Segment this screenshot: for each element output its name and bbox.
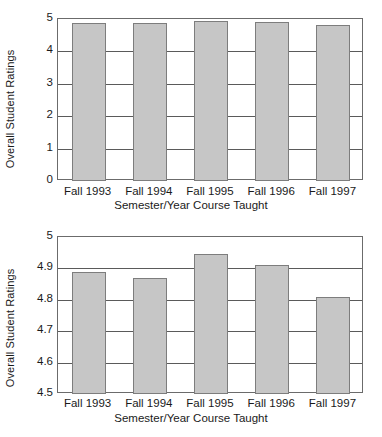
y-axis-tick-label: 1 [47,142,53,154]
y-axis-tick-label: 4.6 [37,356,53,368]
bar [194,21,228,181]
bar-chart-full-scale: Overall Student Ratings 012345 Fall 1993… [0,0,382,218]
bar [255,22,289,181]
y-axis-tick-label: 2 [47,109,53,121]
y-axis-tick-label: 4.7 [37,324,53,336]
x-axis-tick-label: Fall 1993 [64,186,111,198]
y-axis-tick-label: 5 [47,12,53,24]
bar [316,297,350,394]
y-axis-tick-label: 5 [47,230,53,242]
plot-area-bottom [57,236,363,393]
x-axis-tick-label: Fall 1993 [64,398,111,410]
y-axis-title-top: Overall Student Ratings [0,0,20,218]
bar [72,272,106,394]
x-axis-tick-label: Fall 1997 [309,186,356,198]
y-axis-tick-label: 0 [47,174,53,186]
bar [133,278,167,394]
y-axis-tick-labels-bottom: 4.54.64.74.84.95 [19,236,53,393]
bar [133,23,167,181]
y-axis-title-bottom: Overall Student Ratings [0,218,20,437]
x-axis-tick-label: Fall 1994 [125,186,172,198]
bar-chart-zoomed-scale: Overall Student Ratings 4.54.64.74.84.95… [0,218,382,437]
x-axis-tick-label: Fall 1995 [186,398,233,410]
x-axis-tick-label: Fall 1997 [309,398,356,410]
y-axis-tick-label: 4.9 [37,262,53,274]
x-axis-tick-label: Fall 1994 [125,398,172,410]
y-axis-tick-label: 4.8 [37,293,53,305]
x-axis-title-top: Semester/Year Course Taught [0,200,382,212]
bar [255,265,289,394]
y-axis-tick-label: 3 [47,77,53,89]
y-axis-tick-label: 4.5 [37,387,53,399]
y-axis-tick-label: 4 [47,45,53,57]
x-axis-tick-label: Fall 1996 [248,398,295,410]
bar [194,254,228,394]
plot-area-top [57,18,363,180]
x-axis-tick-label: Fall 1996 [248,186,295,198]
bar [72,23,106,181]
x-axis-tick-label: Fall 1995 [186,186,233,198]
bar [316,25,350,181]
x-axis-title-bottom: Semester/Year Course Taught [0,413,382,425]
y-axis-tick-labels-top: 012345 [19,18,53,180]
